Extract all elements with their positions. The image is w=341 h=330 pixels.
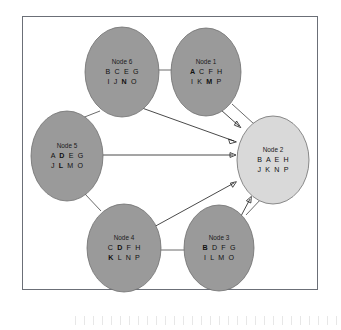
- node-item: H: [284, 156, 290, 164]
- graph-node-node-6[interactable]: Node 6B C E GI J N O: [85, 27, 159, 117]
- node-title: Node 1: [196, 58, 217, 65]
- node-item: B: [257, 156, 266, 164]
- graph-node-node-3[interactable]: Node 3B D F GI L M O: [184, 205, 254, 291]
- node-item-row: B C E G: [106, 68, 140, 76]
- node-item: J: [51, 162, 59, 170]
- node-item: G: [133, 68, 140, 76]
- node-item: K: [265, 166, 274, 174]
- node-item-row: B A E H: [257, 156, 290, 164]
- scan-artifact-strip: [72, 316, 338, 325]
- node-item: H: [217, 68, 223, 76]
- node-item: O: [228, 254, 235, 262]
- node-item: A: [51, 152, 60, 160]
- node-item: B: [106, 68, 115, 76]
- node-item-row: A D E G: [51, 152, 85, 160]
- node-item: K: [197, 78, 206, 86]
- node-item: N: [126, 254, 135, 262]
- node-item: M: [206, 78, 216, 86]
- node-item: C: [108, 244, 117, 252]
- node-item: L: [118, 254, 126, 262]
- node-item: O: [78, 162, 85, 170]
- node-title: Node 5: [57, 142, 78, 149]
- node-item: F: [208, 68, 217, 76]
- node-item: F: [221, 244, 230, 252]
- node-item: B: [203, 244, 212, 252]
- node-item: E: [275, 156, 284, 164]
- node-item: M: [218, 254, 228, 262]
- node-item: N: [122, 78, 131, 86]
- node-item: H: [135, 244, 141, 252]
- node-item: D: [117, 244, 126, 252]
- node-item: K: [108, 254, 117, 262]
- node-item: M: [67, 162, 77, 170]
- node-item-row: A C F H: [190, 68, 223, 76]
- node-item: E: [124, 68, 133, 76]
- node-item: F: [127, 244, 136, 252]
- node-item: J: [114, 78, 122, 86]
- node-item: C: [199, 68, 208, 76]
- node-item: G: [78, 152, 85, 160]
- node-item: G: [230, 244, 237, 252]
- node-item-row: K L N P: [108, 254, 141, 262]
- node-item: A: [190, 68, 199, 76]
- node-title: Node 6: [112, 58, 133, 65]
- node-item: D: [59, 152, 68, 160]
- node-item-row: I J N O: [108, 78, 138, 86]
- graph-node-node-2[interactable]: Node 2B A E HJ K N P: [237, 116, 309, 204]
- node-item-row: I L M O: [204, 254, 235, 262]
- node-item: N: [274, 166, 283, 174]
- node-item: L: [59, 162, 67, 170]
- node-item: P: [135, 254, 141, 262]
- node-item-row: B D F G: [203, 244, 237, 252]
- node-title: Node 2: [263, 146, 284, 153]
- node-title: Node 4: [114, 234, 135, 241]
- graph-node-node-5[interactable]: Node 5A D E GJ L M O: [31, 111, 103, 201]
- node-item-row: J K N P: [258, 166, 290, 174]
- figure-root: Node 1A C F HI K M PNode 2B A E HJ K N P…: [0, 0, 341, 330]
- node-item-row: I K M P: [191, 78, 222, 86]
- node-item-row: J L M O: [51, 162, 84, 170]
- node-item: C: [115, 68, 124, 76]
- node-item: A: [266, 156, 275, 164]
- node-title: Node 3: [209, 234, 230, 241]
- node-item: O: [131, 78, 138, 86]
- graph-node-node-1[interactable]: Node 1A C F HI K M P: [171, 28, 241, 116]
- node-item: D: [212, 244, 221, 252]
- node-item: P: [216, 78, 222, 86]
- node-item: J: [258, 166, 266, 174]
- node-item-row: C D F H: [108, 244, 142, 252]
- node-item: E: [69, 152, 78, 160]
- node-item: P: [284, 166, 290, 174]
- node-item: L: [210, 254, 218, 262]
- graph-node-node-4[interactable]: Node 4C D F HK L N P: [87, 204, 161, 292]
